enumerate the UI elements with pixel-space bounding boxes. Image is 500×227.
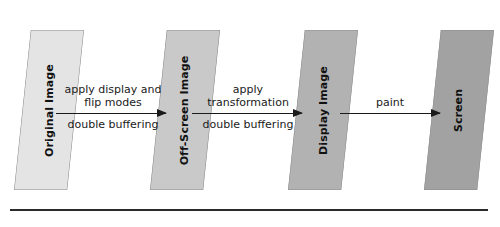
arrow-display-to-screen xyxy=(340,113,440,114)
edge-1-label-above-line-2: flip modes xyxy=(58,96,168,109)
arrow-original-to-offscreen xyxy=(56,113,166,114)
edge-2-label-above: apply transformation xyxy=(192,83,304,109)
diagram-canvas: Original Image Off-Screen Image Display … xyxy=(0,0,500,227)
bottom-divider xyxy=(10,209,488,211)
arrow-offscreen-to-display xyxy=(192,113,302,114)
edge-1-label-above-line-1: apply display and xyxy=(58,83,168,96)
plane-outline xyxy=(14,30,84,190)
edge-1-label-above: apply display and flip modes xyxy=(58,83,168,109)
edge-2-label-above-line-1: apply xyxy=(192,83,304,96)
edge-1-label-below: double buffering xyxy=(58,118,168,131)
edge-2-label-above-line-2: transformation xyxy=(192,96,304,109)
edge-3-label-above: paint xyxy=(345,96,435,109)
node-original-image xyxy=(14,30,84,190)
edge-2-label-below: double buffering xyxy=(190,118,306,131)
